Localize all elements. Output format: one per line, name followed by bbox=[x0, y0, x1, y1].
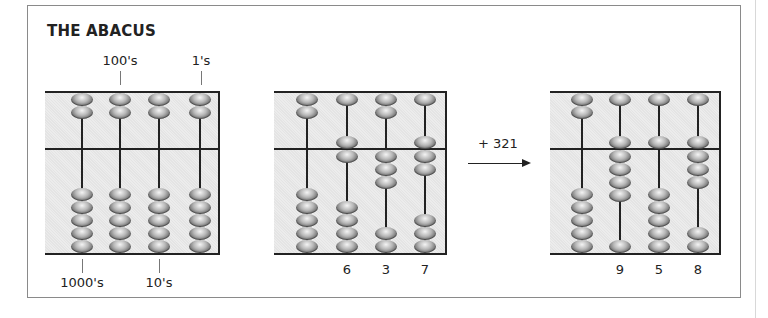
digit-label: 3 bbox=[382, 262, 390, 277]
arrow-right-icon bbox=[468, 163, 528, 164]
abacus-bead bbox=[336, 240, 358, 253]
abacus-bead bbox=[296, 214, 318, 227]
abacus-bead bbox=[571, 93, 593, 106]
abacus-bead bbox=[109, 201, 131, 214]
frame-right-edge bbox=[719, 91, 721, 255]
abacus-bead bbox=[336, 201, 358, 214]
abacus-bead bbox=[336, 227, 358, 240]
abacus-bead bbox=[648, 188, 670, 201]
abacus-bead bbox=[687, 136, 709, 149]
abacus-bead bbox=[571, 106, 593, 119]
digit-label: 8 bbox=[694, 262, 702, 277]
abacus-bead bbox=[687, 93, 709, 106]
operation-label: + 321 bbox=[478, 136, 518, 151]
abacus-bead bbox=[609, 189, 631, 202]
abacus-bead bbox=[648, 214, 670, 227]
abacus-bead bbox=[109, 106, 131, 119]
abacus-bead bbox=[375, 240, 397, 253]
frame-bottom-bar bbox=[274, 253, 447, 255]
abacus-bead bbox=[609, 163, 631, 176]
abacus-bead bbox=[687, 150, 709, 163]
tick-tens bbox=[159, 259, 160, 273]
abacus-bead bbox=[189, 93, 211, 106]
abacus-bead bbox=[71, 106, 93, 119]
abacus-bead bbox=[336, 136, 358, 149]
frame-bottom-bar bbox=[550, 253, 721, 255]
abacus-bead bbox=[109, 227, 131, 240]
abacus-bead bbox=[189, 106, 211, 119]
abacus-bead bbox=[414, 136, 436, 149]
abacus-bead bbox=[189, 227, 211, 240]
tick-hundreds bbox=[120, 71, 121, 85]
abacus-bead bbox=[109, 240, 131, 253]
abacus-bead bbox=[336, 93, 358, 106]
frame-right-edge bbox=[445, 91, 447, 255]
abacus-bead bbox=[609, 240, 631, 253]
abacus-bead bbox=[109, 188, 131, 201]
abacus-bead bbox=[148, 240, 170, 253]
abacus-bead bbox=[148, 214, 170, 227]
abacus-bead bbox=[571, 214, 593, 227]
abacus-bead bbox=[687, 176, 709, 189]
digit-label: 6 bbox=[343, 262, 351, 277]
abacus-bead bbox=[189, 214, 211, 227]
digit-label: 7 bbox=[421, 262, 429, 277]
abacus-bead bbox=[296, 188, 318, 201]
abacus-bead bbox=[148, 188, 170, 201]
abacus-bead bbox=[109, 93, 131, 106]
abacus-bead bbox=[296, 201, 318, 214]
abacus-bead bbox=[687, 227, 709, 240]
abacus-bead bbox=[687, 163, 709, 176]
abacus-bead bbox=[296, 106, 318, 119]
label-tens: 10's bbox=[146, 275, 173, 290]
abacus-bead bbox=[609, 93, 631, 106]
frame-right-edge bbox=[218, 91, 220, 255]
abacus-bead bbox=[71, 201, 93, 214]
abacus-bead bbox=[109, 214, 131, 227]
label-ones: 1's bbox=[192, 53, 211, 68]
abacus-bead bbox=[609, 176, 631, 189]
abacus-bead bbox=[687, 240, 709, 253]
abacus-bead bbox=[609, 136, 631, 149]
abacus-bead bbox=[375, 93, 397, 106]
abacus-bead bbox=[571, 188, 593, 201]
abacus-bead bbox=[148, 106, 170, 119]
abacus-bead bbox=[571, 201, 593, 214]
abacus-bead bbox=[71, 240, 93, 253]
abacus-bead bbox=[648, 240, 670, 253]
abacus-bead bbox=[71, 93, 93, 106]
tick-ones bbox=[201, 71, 202, 85]
frame-bottom-bar bbox=[45, 253, 220, 255]
abacus-bead bbox=[571, 240, 593, 253]
abacus-bead bbox=[414, 163, 436, 176]
label-thousands: 1000's bbox=[60, 275, 103, 290]
abacus-bead bbox=[414, 227, 436, 240]
abacus-bead bbox=[148, 227, 170, 240]
frame-divider-bar bbox=[45, 148, 220, 150]
abacus-bead bbox=[648, 201, 670, 214]
abacus-bead bbox=[189, 201, 211, 214]
abacus-bead bbox=[414, 93, 436, 106]
abacus-bead bbox=[296, 227, 318, 240]
abacus-bead bbox=[189, 240, 211, 253]
label-hundreds: 100's bbox=[102, 53, 137, 68]
abacus-bead bbox=[648, 136, 670, 149]
abacus-bead bbox=[296, 93, 318, 106]
abacus-bead bbox=[148, 201, 170, 214]
abacus-bead bbox=[375, 106, 397, 119]
diagram-title: THE ABACUS bbox=[47, 22, 156, 40]
abacus-bead bbox=[336, 150, 358, 163]
abacus-bead bbox=[189, 188, 211, 201]
abacus-bead bbox=[414, 150, 436, 163]
abacus-bead bbox=[71, 227, 93, 240]
abacus-bead bbox=[609, 150, 631, 163]
tick-thousands bbox=[82, 259, 83, 273]
digit-label: 5 bbox=[655, 262, 663, 277]
abacus-bead bbox=[336, 214, 358, 227]
abacus-bead bbox=[414, 240, 436, 253]
abacus-bead bbox=[148, 93, 170, 106]
abacus-bead bbox=[375, 150, 397, 163]
abacus-bead bbox=[296, 240, 318, 253]
abacus-bead bbox=[648, 93, 670, 106]
abacus-bead bbox=[648, 227, 670, 240]
